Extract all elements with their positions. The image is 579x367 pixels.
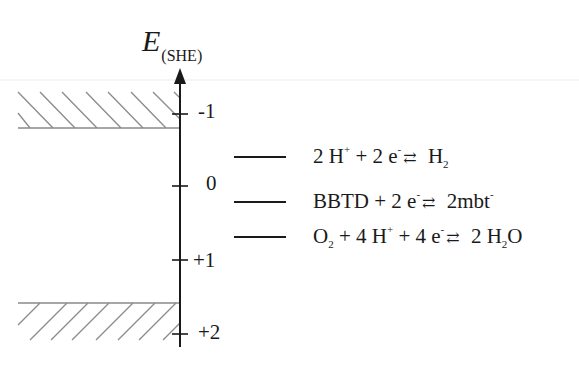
axis-title: E(SHE) bbox=[142, 26, 202, 56]
equation-o2: O2 + 4 H+ + 4 e-⇄ 2 H2O bbox=[313, 226, 523, 247]
level-line-o2 bbox=[234, 236, 286, 238]
tick-label-plus2: +2 bbox=[198, 322, 220, 343]
equilibrium-arrow-icon: ⇄ bbox=[446, 229, 459, 246]
axis-title-sub: (SHE) bbox=[161, 47, 202, 64]
equation-h2: 2 H+ + 2 e-⇄ H2 bbox=[313, 146, 449, 167]
energy-diagram bbox=[0, 0, 579, 367]
equilibrium-arrow-icon: ⇄ bbox=[422, 194, 435, 211]
equilibrium-arrow-icon: ⇄ bbox=[403, 149, 416, 166]
level-line-bbtd bbox=[234, 201, 286, 203]
axis-arrow-icon bbox=[174, 68, 186, 84]
tick-label-0: 0 bbox=[206, 173, 217, 194]
top-band-hatch bbox=[18, 92, 180, 128]
equation-bbtd: BBTD + 2 e-⇄ 2mbt- bbox=[313, 191, 494, 212]
bottom-band-hatch bbox=[18, 303, 180, 340]
tick-label-plus1: +1 bbox=[193, 250, 215, 271]
level-line-h2 bbox=[234, 156, 286, 158]
tick-label-minus1: -1 bbox=[198, 101, 216, 122]
axis-title-main: E bbox=[142, 24, 160, 57]
